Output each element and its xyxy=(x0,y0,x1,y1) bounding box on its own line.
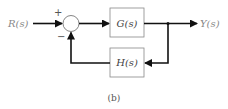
forward-block-label: G(s) xyxy=(117,18,138,29)
output-label: Y(s) xyxy=(200,18,220,29)
feedback-arrow-out xyxy=(71,33,110,64)
caption: (b) xyxy=(108,93,121,103)
input-label: R(s) xyxy=(7,18,29,29)
summing-junction xyxy=(63,16,79,32)
feedback-block-label: H(s) xyxy=(115,57,138,68)
plus-sign: + xyxy=(54,7,62,18)
feedback-arrow-in xyxy=(145,24,168,64)
minus-sign: − xyxy=(57,31,65,42)
block-diagram: R(s) + − G(s) Y(s) H(s) (b) xyxy=(0,0,228,109)
